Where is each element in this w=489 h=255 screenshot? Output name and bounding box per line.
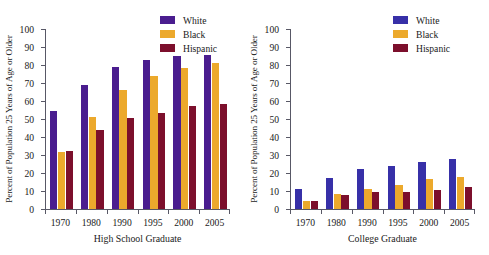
legend-item-white: White bbox=[393, 13, 450, 27]
bar-white-1980 bbox=[326, 178, 333, 209]
x-axis-tick bbox=[76, 209, 77, 214]
y-axis-tick: 20 bbox=[286, 173, 291, 174]
y-axis-tick-label: 80 bbox=[269, 60, 279, 71]
x-axis-tick-label: 1980 bbox=[82, 217, 101, 228]
y-axis-tick-label: 80 bbox=[24, 60, 34, 71]
y-axis-tick-label: 50 bbox=[269, 114, 279, 125]
x-axis-tick bbox=[413, 209, 414, 214]
bar-white-1995 bbox=[143, 60, 150, 209]
y-axis-tick-label: 30 bbox=[24, 150, 34, 161]
legend-label: White bbox=[416, 15, 439, 26]
plot-area-college-graduate: 0102030405060708090100197019801990199520… bbox=[290, 29, 475, 210]
x-axis-tick bbox=[474, 209, 475, 214]
x-axis-tick bbox=[168, 209, 169, 214]
bar-white-1990 bbox=[112, 67, 119, 209]
legend-item-hispanic: Hispanic bbox=[160, 41, 217, 55]
bar-black-1990 bbox=[119, 90, 126, 209]
y-axis-tick-label: 70 bbox=[24, 78, 34, 89]
y-axis-tick-label: 10 bbox=[24, 186, 34, 197]
y-axis-tick-label: 50 bbox=[24, 114, 34, 125]
bar-hispanic-1995 bbox=[403, 192, 410, 209]
y-axis-tick-label: 40 bbox=[24, 132, 34, 143]
y-axis-tick: 70 bbox=[286, 83, 291, 84]
legend-item-black: Black bbox=[393, 27, 450, 41]
x-axis-tick bbox=[321, 209, 322, 214]
x-axis-tick-label: 1995 bbox=[143, 217, 162, 228]
y-axis-tick: 60 bbox=[41, 101, 46, 102]
bar-hispanic-2005 bbox=[465, 187, 472, 209]
legend-swatch-hispanic-icon bbox=[160, 44, 175, 52]
x-axis-tick-label: 1970 bbox=[51, 217, 70, 228]
y-axis-tick: 70 bbox=[41, 83, 46, 84]
legend-swatch-hispanic-icon bbox=[393, 44, 408, 52]
y-axis-tick: 20 bbox=[41, 173, 46, 174]
figure-two-panel-bar-charts: Percent of Population 25 Years of Age or… bbox=[0, 0, 489, 255]
y-axis-tick: 80 bbox=[286, 65, 291, 66]
bar-white-1995 bbox=[388, 166, 395, 209]
y-axis-tick: 30 bbox=[286, 155, 291, 156]
y-axis-tick: 10 bbox=[286, 191, 291, 192]
y-axis-tick-label: 90 bbox=[269, 42, 279, 53]
y-axis-tick-label: 60 bbox=[269, 96, 279, 107]
bar-hispanic-2005 bbox=[220, 104, 227, 209]
legend-swatch-white-icon bbox=[160, 16, 175, 24]
y-axis-title: Percent of Population 25 Years of Age or… bbox=[247, 28, 261, 210]
bar-black-1990 bbox=[364, 189, 371, 209]
y-axis-tick-label: 90 bbox=[24, 42, 34, 53]
y-axis-tick-label: 20 bbox=[269, 168, 279, 179]
bar-hispanic-1970 bbox=[311, 201, 318, 209]
bar-white-2000 bbox=[173, 56, 180, 209]
x-axis-tick bbox=[229, 209, 230, 214]
bar-hispanic-1980 bbox=[96, 130, 103, 209]
x-axis-title: High School Graduate bbox=[45, 233, 230, 244]
y-axis-tick-label: 100 bbox=[20, 24, 34, 35]
legend-label: Black bbox=[183, 29, 205, 40]
chart-panel-college-graduate: Percent of Population 25 Years of Age or… bbox=[245, 0, 489, 255]
bar-white-1990 bbox=[357, 169, 364, 209]
y-axis-tick-label: 60 bbox=[24, 96, 34, 107]
bar-hispanic-1970 bbox=[66, 151, 73, 209]
legend-item-black: Black bbox=[160, 27, 217, 41]
x-axis-tick-label: 2000 bbox=[174, 217, 193, 228]
bar-black-1995 bbox=[150, 76, 157, 209]
bar-white-1980 bbox=[81, 85, 88, 209]
y-axis-tick: 50 bbox=[286, 119, 291, 120]
y-axis-tick-label: 0 bbox=[29, 204, 34, 215]
y-axis-tick-label: 10 bbox=[269, 186, 279, 197]
y-axis-tick-label: 0 bbox=[274, 204, 279, 215]
x-axis-tick-label: 1990 bbox=[112, 217, 131, 228]
bar-hispanic-1990 bbox=[372, 192, 379, 209]
plot-area-high-school-graduate: 0102030405060708090100197019801990199520… bbox=[45, 29, 230, 210]
legend-swatch-black-icon bbox=[393, 30, 408, 38]
bar-hispanic-1990 bbox=[127, 118, 134, 209]
x-axis-tick-label: 1970 bbox=[296, 217, 315, 228]
y-axis-tick-label: 70 bbox=[269, 78, 279, 89]
y-axis-tick: 90 bbox=[286, 47, 291, 48]
x-axis-tick bbox=[138, 209, 139, 214]
x-axis-tick-label: 2000 bbox=[419, 217, 438, 228]
bar-hispanic-2000 bbox=[189, 106, 196, 209]
x-axis-tick bbox=[352, 209, 353, 214]
y-axis-tick: 90 bbox=[41, 47, 46, 48]
x-axis-tick-label: 1990 bbox=[357, 217, 376, 228]
x-axis-tick bbox=[444, 209, 445, 214]
bar-white-2005 bbox=[449, 159, 456, 209]
bar-black-2005 bbox=[212, 63, 219, 209]
y-axis-title: Percent of Population 25 Years of Age or… bbox=[2, 28, 16, 210]
bar-white-1970 bbox=[295, 189, 302, 209]
y-axis-tick-label: 100 bbox=[265, 24, 279, 35]
bar-black-2005 bbox=[457, 177, 464, 209]
legend-high-school-graduate: WhiteBlackHispanic bbox=[160, 13, 217, 55]
x-axis-tick-label: 2005 bbox=[450, 217, 469, 228]
y-axis-tick: 40 bbox=[286, 137, 291, 138]
legend-label: White bbox=[183, 15, 206, 26]
bar-hispanic-1980 bbox=[341, 195, 348, 209]
x-axis-tick bbox=[107, 209, 108, 214]
bar-black-1995 bbox=[395, 185, 402, 209]
x-axis-tick bbox=[199, 209, 200, 214]
y-axis-tick-label: 20 bbox=[24, 168, 34, 179]
y-axis-tick: 40 bbox=[41, 137, 46, 138]
x-axis-tick bbox=[45, 209, 46, 214]
legend-swatch-black-icon bbox=[160, 30, 175, 38]
y-axis-tick: 80 bbox=[41, 65, 46, 66]
